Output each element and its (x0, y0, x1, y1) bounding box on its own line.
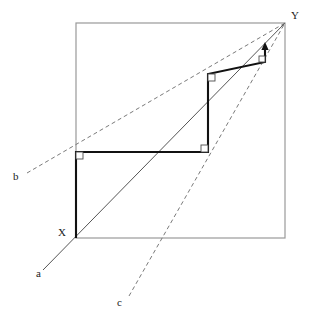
vertex-label-x: X (58, 227, 66, 238)
ray-b-line (27, 23, 285, 173)
ray-label-a: a (36, 268, 41, 279)
right-angle-mark-2 (201, 145, 208, 152)
right-angle-mark-1 (76, 152, 83, 159)
ray-label-c: c (117, 297, 122, 308)
figure-canvas (0, 0, 312, 322)
right-angle-mark-4 (259, 56, 265, 62)
geometry-figure: X Y a b c (0, 0, 312, 322)
ray-c-line (129, 23, 285, 296)
ray-label-b: b (13, 171, 19, 182)
right-angle-mark-3 (208, 74, 215, 81)
right-angle-spiral-path (76, 46, 265, 238)
vertex-label-y: Y (291, 10, 299, 21)
ray-a-line (43, 23, 285, 270)
